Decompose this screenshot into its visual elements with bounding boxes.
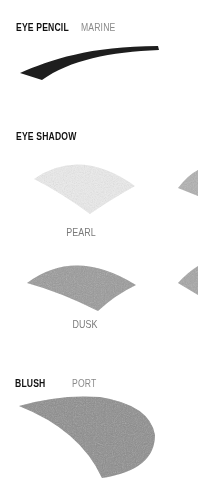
- eye-shadow-title: EYE SHADOW: [16, 130, 76, 142]
- eye-shadow-pearl-label: PEARL: [56, 226, 107, 238]
- blush-swatch: [19, 396, 155, 478]
- blush-shade: PORT: [72, 377, 96, 389]
- eye-shadow-dusk-swatch: [27, 265, 136, 311]
- blush-title: BLUSH: [15, 377, 45, 389]
- eye-shadow-dusk-label: DUSK: [60, 318, 111, 330]
- swatch-artwork: [0, 0, 198, 493]
- eye-shadow-partial-swatch-2: [178, 266, 198, 295]
- eye-pencil-swatch: [20, 46, 159, 80]
- eye-shadow-partial-swatch-1: [178, 170, 198, 196]
- eye-shadow-pearl-swatch: [34, 165, 135, 214]
